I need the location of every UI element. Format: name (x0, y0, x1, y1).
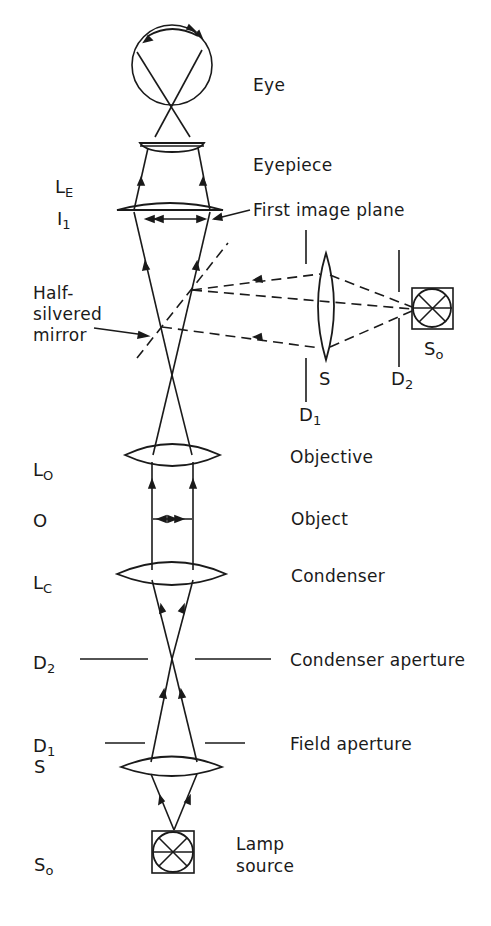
label-object: Object (291, 511, 348, 528)
side-lamp-source-icon (412, 288, 453, 329)
label-eyepiece: Eyepiece (253, 157, 332, 174)
label-condenser-aperture: Condenser aperture (290, 652, 465, 669)
field-lens-le (117, 203, 223, 210)
label-eye: Eye (253, 77, 285, 94)
label-first-image-plane: First image plane (253, 202, 405, 219)
label-lamp-2: source (236, 858, 294, 875)
label-objective: Objective (290, 449, 373, 466)
symbol-lo: LO (33, 461, 53, 482)
eye-icon (132, 25, 212, 137)
label-half-silvered-2: silvered (33, 306, 102, 323)
objective-lens (125, 444, 220, 466)
optical-diagram (0, 0, 491, 926)
first-image-arrow (146, 216, 205, 222)
symbol-so: So (34, 856, 53, 877)
eyepiece-lens (140, 143, 204, 152)
symbol-s: S (34, 758, 45, 776)
symbol-lc: LC (33, 574, 52, 595)
label-half-silvered-1: Half- (33, 285, 74, 302)
symbol-le: LE (55, 178, 73, 199)
half-silvered-mirror (137, 243, 228, 358)
symbol-i1: I1 (57, 210, 71, 231)
collector-lens-s (121, 757, 222, 777)
condenser-lens (117, 562, 226, 585)
label-condenser: Condenser (291, 568, 385, 585)
label-lamp-1: Lamp (236, 836, 284, 853)
object-arrow (153, 516, 192, 522)
label-field-aperture: Field aperture (290, 736, 412, 753)
symbol-side-so: So (424, 340, 443, 361)
symbol-side-s: S (319, 370, 330, 388)
symbol-side-d2: D2 (391, 370, 413, 391)
symbol-d2: D2 (33, 654, 55, 675)
symbol-side-d1: D1 (299, 406, 321, 427)
symbol-d1: D1 (33, 737, 55, 758)
lamp-source-icon (152, 831, 194, 873)
side-lens-s (318, 253, 334, 360)
label-half-silvered-3: mirror (33, 327, 87, 344)
symbol-o: O (33, 512, 47, 530)
